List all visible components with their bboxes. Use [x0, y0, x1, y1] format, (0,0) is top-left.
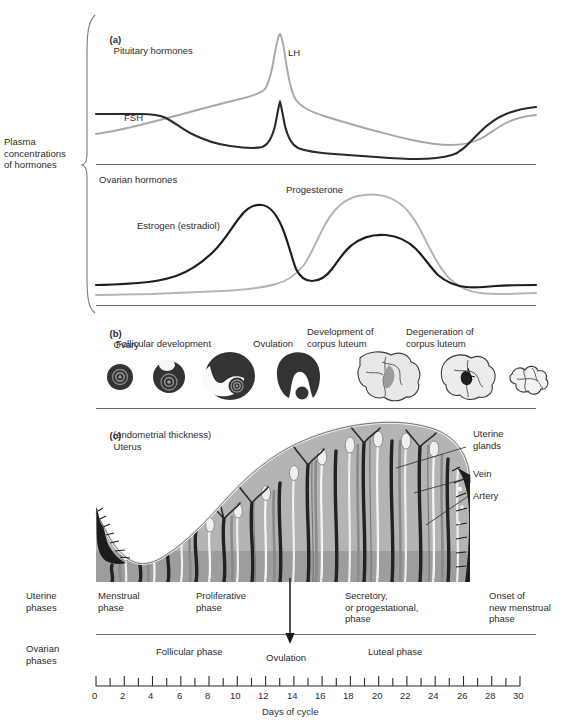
ovarian-phases-label: Ovarian phases [26, 643, 96, 666]
development-corpus-luteum-label: Development of corpus luteum [307, 326, 374, 349]
ovulation-stage-label: Ovulation [253, 338, 293, 350]
uterine-phase-menstrual: Menstrual phase [98, 590, 140, 613]
ovarian-hormones-title: Ovarian hormones [99, 174, 177, 186]
ovarian-phase-follicular: Follicular phase [156, 646, 223, 658]
x-axis-title: Days of cycle [262, 706, 319, 718]
plasma-concentration-label: Plasma concentrations of hormones [4, 136, 82, 171]
follicle-stage-3-graafian [202, 352, 255, 400]
panel-b-tag-text: (b) [110, 328, 122, 339]
pituitary-hormones-plot [96, 28, 536, 164]
artery-callout: Artery [473, 490, 498, 502]
corpus-albicans-illustration [510, 366, 548, 394]
fsh-curve [96, 102, 536, 159]
uterine-ovarian-divider [96, 634, 536, 635]
estrogen-curve-label: Estrogen (estradiol) [137, 220, 220, 232]
uterine-phase-onset-new: Onset of new menstrual phase [489, 590, 551, 625]
lh-curve [96, 34, 536, 145]
panel-a-divider [96, 164, 536, 165]
ovarian-hormones-plot [96, 185, 536, 303]
follicular-development-label: Follicular development [116, 338, 211, 350]
axis-ticks [96, 676, 520, 686]
corpus-luteum-degeneration-illustration [441, 355, 495, 400]
follicle-stage-1 [107, 364, 133, 390]
uterine-glands-callout: Uterine glands [473, 428, 504, 451]
endometrium-illustration [96, 415, 536, 582]
uterine-phase-proliferative: Proliferative phase [196, 590, 246, 613]
ovulation-arrow [282, 578, 298, 648]
axis-tick-labels: 0 2 4 6 8 10 12 14 16 18 20 22 24 26 28 … [96, 690, 536, 704]
ovarian-phase-luteal: Luteal phase [368, 646, 422, 658]
fsh-curve-label: FSH [124, 112, 143, 124]
lh-curve-label: LH [288, 47, 300, 59]
follicle-stage-2 [153, 359, 185, 393]
estrogen-curve [96, 205, 536, 288]
panel-b-bottom-divider [96, 408, 536, 409]
ovary-stage-illustrations [96, 352, 536, 402]
ovulation-arrow-label: Ovulation [266, 652, 306, 664]
ovulation-rupture-illustration [277, 352, 320, 399]
degeneration-corpus-luteum-label: Degeneration of corpus luteum [406, 326, 474, 349]
figure-root: Plasma concentrations of hormones (a) Pi… [0, 0, 567, 720]
uterine-phase-secretory: Secretory, or progestational, phase [345, 590, 418, 625]
panel-a-bottom-axis [96, 305, 536, 306]
uterine-phases-label: Uterine phases [26, 590, 96, 613]
corpus-luteum-development-illustration [358, 352, 420, 401]
vein-callout: Vein [473, 468, 492, 480]
progesterone-curve-label: Progesterone [286, 184, 343, 196]
